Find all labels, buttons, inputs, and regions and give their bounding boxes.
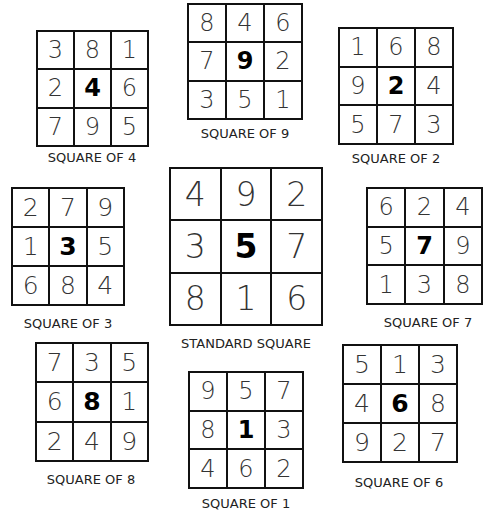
- center-cell: 4: [74, 69, 111, 107]
- center-cell: 2: [377, 67, 415, 106]
- grid-cell: 5: [111, 343, 148, 382]
- grid-cell: 6: [111, 69, 148, 107]
- grid-cell: 2: [37, 69, 74, 107]
- grid-cell: 4: [189, 449, 227, 488]
- grid-cell: 1: [339, 28, 377, 67]
- grid-cell: 9: [189, 372, 227, 411]
- center-cell: 7: [405, 227, 443, 266]
- grid-cell: 3: [37, 31, 74, 69]
- center-cell: 8: [73, 382, 110, 421]
- grid-cell: 9: [444, 227, 482, 266]
- center-cell: 3: [49, 227, 86, 266]
- grid-cell: 7: [36, 343, 73, 382]
- grid-cell: 9: [87, 188, 124, 227]
- grid-cell: 4: [170, 168, 221, 220]
- grid-cell: 2: [12, 188, 49, 227]
- grid-cell: 6: [264, 4, 302, 42]
- grid-cell: 2: [381, 423, 419, 462]
- square-of-1-grid: 957813462: [188, 371, 304, 489]
- square-of-6-grid: 513468927: [342, 344, 458, 463]
- grid-cell: 6: [12, 266, 49, 305]
- grid-cell: 8: [444, 265, 482, 304]
- square-of-3-label: SQUARE OF 3: [24, 316, 112, 331]
- square-of-8-label: SQUARE OF 8: [47, 472, 135, 487]
- grid-cell: 5: [339, 105, 377, 144]
- square-of-9-label: SQUARE OF 9: [201, 126, 289, 141]
- grid-cell: 5: [226, 81, 264, 119]
- grid-cell: 8: [419, 384, 457, 423]
- grid-cell: 9: [74, 108, 111, 146]
- grid-cell: 4: [343, 384, 381, 423]
- grid-cell: 8: [74, 31, 111, 69]
- grid-cell: 3: [415, 105, 453, 144]
- grid-cell: 8: [170, 273, 221, 325]
- grid-cell: 4: [415, 67, 453, 106]
- square-of-8-grid: 735681249: [35, 342, 149, 462]
- center-cell: 6: [381, 384, 419, 423]
- grid-cell: 7: [37, 108, 74, 146]
- grid-cell: 8: [415, 28, 453, 67]
- grid-cell: 1: [12, 227, 49, 266]
- grid-cell: 8: [49, 266, 86, 305]
- grid-cell: 7: [49, 188, 86, 227]
- grid-cell: 3: [405, 265, 443, 304]
- center-cell: 1: [227, 411, 265, 450]
- square-of-7-grid: 624579138: [366, 187, 483, 305]
- square-of-1-label: SQUARE OF 1: [202, 496, 290, 511]
- grid-cell: 6: [36, 382, 73, 421]
- grid-cell: 7: [265, 372, 303, 411]
- square-of-2-label: SQUARE OF 2: [352, 151, 440, 166]
- grid-cell: 9: [221, 168, 272, 220]
- grid-cell: 7: [377, 105, 415, 144]
- grid-cell: 3: [170, 220, 221, 272]
- grid-cell: 2: [36, 422, 73, 461]
- grid-cell: 1: [367, 265, 405, 304]
- grid-cell: 2: [265, 449, 303, 488]
- grid-cell: 1: [111, 382, 148, 421]
- standard-square-grid: 492357816: [169, 167, 323, 326]
- grid-cell: 4: [444, 188, 482, 227]
- grid-cell: 8: [189, 411, 227, 450]
- grid-cell: 3: [265, 411, 303, 450]
- grid-cell: 5: [227, 372, 265, 411]
- grid-cell: 2: [264, 42, 302, 80]
- grid-cell: 9: [343, 423, 381, 462]
- grid-cell: 4: [87, 266, 124, 305]
- grid-cell: 6: [271, 273, 322, 325]
- square-of-4-grid: 381246795: [36, 30, 149, 147]
- grid-cell: 6: [367, 188, 405, 227]
- center-cell: 9: [226, 42, 264, 80]
- grid-cell: 3: [419, 345, 457, 384]
- grid-cell: 5: [343, 345, 381, 384]
- standard-square-label: STANDARD SQUARE: [181, 336, 311, 351]
- grid-cell: 1: [111, 31, 148, 69]
- grid-cell: 6: [377, 28, 415, 67]
- grid-cell: 5: [367, 227, 405, 266]
- grid-cell: 7: [271, 220, 322, 272]
- grid-cell: 7: [188, 42, 226, 80]
- grid-cell: 3: [188, 81, 226, 119]
- square-of-3-grid: 279135684: [11, 187, 125, 306]
- square-of-4-label: SQUARE OF 4: [48, 150, 136, 165]
- grid-cell: 4: [226, 4, 264, 42]
- grid-cell: 6: [227, 449, 265, 488]
- center-cell: 5: [221, 220, 272, 272]
- grid-cell: 8: [188, 4, 226, 42]
- grid-cell: 1: [264, 81, 302, 119]
- grid-cell: 2: [271, 168, 322, 220]
- grid-cell: 1: [381, 345, 419, 384]
- square-of-2-grid: 168924573: [338, 27, 454, 145]
- square-of-7-label: SQUARE OF 7: [384, 315, 472, 330]
- grid-cell: 5: [111, 108, 148, 146]
- grid-cell: 3: [73, 343, 110, 382]
- grid-cell: 5: [87, 227, 124, 266]
- grid-cell: 2: [405, 188, 443, 227]
- grid-cell: 7: [419, 423, 457, 462]
- grid-cell: 4: [73, 422, 110, 461]
- square-of-6-label: SQUARE OF 6: [355, 475, 443, 490]
- grid-cell: 9: [111, 422, 148, 461]
- grid-cell: 1: [221, 273, 272, 325]
- square-of-9-grid: 846792351: [187, 3, 303, 120]
- grid-cell: 9: [339, 67, 377, 106]
